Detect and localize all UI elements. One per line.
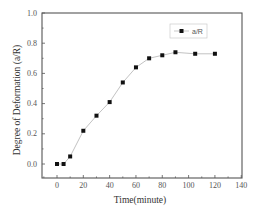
x-axis-title: Time(minute) <box>114 195 166 206</box>
y-tick-label: 0.6 <box>27 69 37 78</box>
y-tick-label: 1.0 <box>27 9 37 18</box>
square-marker-icon <box>81 129 85 133</box>
x-tick-label: 60 <box>132 181 140 190</box>
legend: a/R <box>170 24 207 38</box>
x-tick-label: 0 <box>55 181 59 190</box>
square-marker-icon <box>62 162 66 166</box>
square-marker-icon <box>213 52 217 56</box>
square-marker-icon <box>108 100 112 104</box>
deformation-chart: 020406080100120140 0.00.20.40.60.81.0 a/… <box>0 0 261 213</box>
x-tick-label: 20 <box>79 181 87 190</box>
x-tick-label: 120 <box>209 181 221 190</box>
legend-label: a/R <box>192 28 203 35</box>
x-tick-label: 80 <box>158 181 166 190</box>
x-tick-label: 140 <box>235 181 247 190</box>
square-marker-icon <box>160 53 164 57</box>
y-tick-label: 0.8 <box>27 39 37 48</box>
square-marker-icon <box>147 56 151 60</box>
square-marker-icon <box>173 50 177 54</box>
y-tick-label: 0.0 <box>27 160 37 169</box>
square-marker-icon <box>94 114 98 118</box>
data-series-a-over-r <box>55 50 217 166</box>
x-tick-label: 100 <box>183 181 195 190</box>
square-marker-icon <box>193 52 197 56</box>
y-tick-label: 0.4 <box>27 99 37 108</box>
square-marker-icon <box>121 80 125 84</box>
x-axis: 020406080100120140 <box>44 175 247 190</box>
y-axis-title: Degree of Deformation (a/R) <box>12 45 23 156</box>
x-tick-label: 40 <box>106 181 114 190</box>
square-marker-icon <box>134 65 138 69</box>
square-marker-icon <box>68 154 72 158</box>
y-tick-label: 0.2 <box>27 129 37 138</box>
square-marker-icon <box>55 162 59 166</box>
legend-square-marker-icon <box>180 29 184 33</box>
